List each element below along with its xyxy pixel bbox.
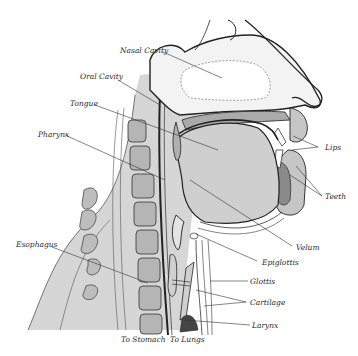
- vocal-tract-diagram: Nasal Cavity Oral Cavity Tongue Pharynx …: [0, 0, 358, 356]
- label-nasal-cavity: Nasal Cavity: [120, 47, 168, 55]
- label-oral-cavity: Oral Cavity: [80, 73, 123, 81]
- label-velum: Velum: [296, 244, 320, 252]
- anatomy-drawing: [0, 0, 358, 356]
- label-to-lungs: To Lungs: [170, 336, 205, 344]
- label-tongue: Tongue: [70, 100, 98, 108]
- label-glottis: Glottis: [250, 278, 275, 286]
- label-pharynx: Pharynx: [38, 131, 69, 139]
- trachea-front-3: [208, 240, 212, 335]
- trachea-front-2: [202, 240, 208, 335]
- nasal-passage: [181, 61, 270, 101]
- cricoid: [180, 315, 198, 332]
- hyoid: [190, 233, 198, 239]
- label-lips: Lips: [325, 144, 341, 152]
- label-teeth: Teeth: [325, 193, 346, 201]
- arytenoid-cartilage: [168, 254, 177, 296]
- tongue: [176, 123, 279, 223]
- label-esophagus: Esophagus: [16, 241, 57, 249]
- label-epiglottis: Epiglottis: [262, 259, 299, 267]
- upper-lip: [290, 108, 307, 142]
- label-cartilage: Cartilage: [250, 299, 285, 307]
- label-to-stomach: To Stomach: [121, 336, 166, 344]
- label-larynx: Larynx: [252, 322, 278, 330]
